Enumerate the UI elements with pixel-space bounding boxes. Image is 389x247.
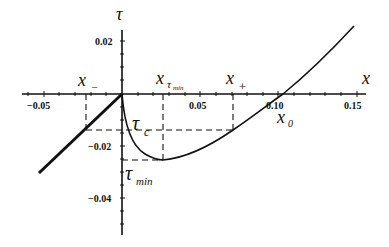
svg-text:x: x — [155, 68, 164, 88]
svg-text:−: − — [91, 81, 98, 93]
svg-text:x: x — [276, 107, 285, 127]
plot-area: −0.05 0.05 0.10 0.15 0.02 −0.02 −0.04 τ … — [0, 0, 389, 247]
chart: −0.05 0.05 0.10 0.15 0.02 −0.02 −0.04 τ … — [0, 0, 389, 247]
linear-branch — [39, 94, 122, 173]
y-tick-label: −0.04 — [88, 193, 111, 204]
svg-text:τ: τ — [167, 78, 172, 90]
svg-text:min: min — [173, 84, 184, 92]
y-tick-label: 0.02 — [95, 36, 113, 47]
x-minus-label: x − — [77, 70, 98, 93]
svg-text:x: x — [77, 70, 86, 90]
svg-text:+: + — [238, 79, 247, 94]
x-plus-label: x + — [225, 68, 247, 94]
svg-text:x: x — [225, 68, 234, 88]
svg-text:min: min — [136, 175, 153, 187]
x-tick-label: −0.05 — [27, 100, 50, 111]
svg-text:c: c — [144, 125, 150, 139]
tau-min-label: τ min — [125, 162, 153, 187]
y-axis-label: τ — [116, 4, 123, 24]
x-zero-label: x 0 — [276, 107, 293, 129]
y-tick-label: −0.02 — [88, 141, 111, 152]
svg-text:τ: τ — [125, 162, 133, 184]
x-taumin-label: x τ min — [155, 68, 184, 92]
svg-text:0: 0 — [288, 118, 293, 129]
x-tick-label: 0.15 — [344, 100, 362, 111]
tau-c-label: τ c — [132, 112, 150, 139]
svg-text:τ: τ — [132, 112, 140, 134]
x-axis-label: x — [361, 68, 370, 88]
x-tick-label: 0.05 — [189, 100, 207, 111]
